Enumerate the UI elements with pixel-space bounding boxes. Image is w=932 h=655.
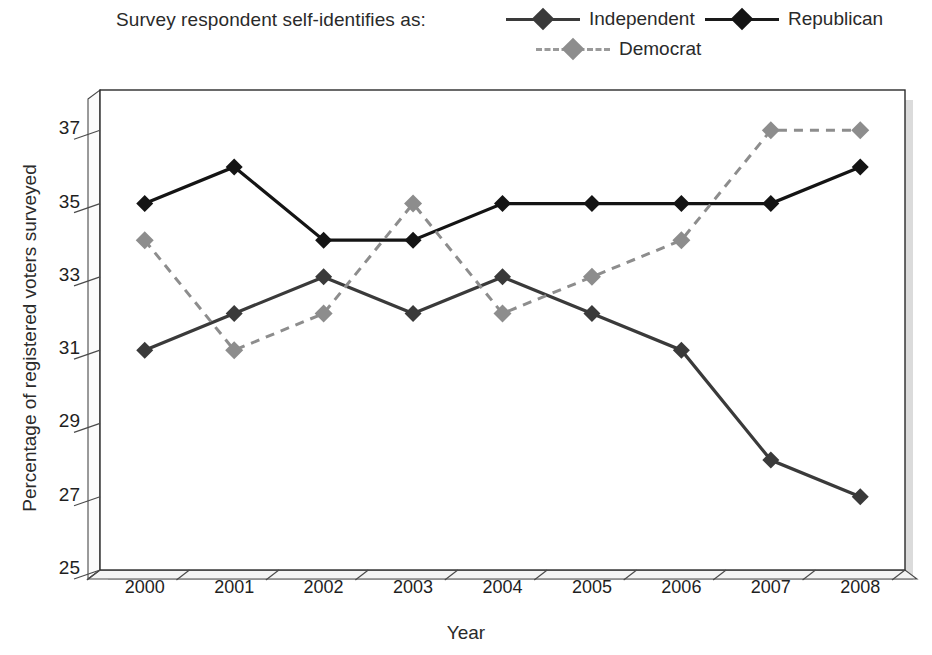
legend-item-republican: Republican (705, 8, 883, 30)
legend-swatch-independent (506, 9, 580, 29)
diamond-marker-icon (532, 8, 555, 31)
axis-floor (88, 570, 917, 579)
plot-frame (100, 90, 905, 570)
legend-label-independent: Independent (589, 8, 695, 30)
legend-swatch-democrat (536, 39, 610, 59)
legend-swatch-republican (705, 9, 779, 29)
line-chart: Percentage of registered voters surveyed… (0, 72, 932, 655)
legend-item-independent: Independent (506, 8, 695, 30)
chart-legend: Survey respondent self-identifies as: In… (0, 0, 932, 72)
axis-wall-left (88, 90, 100, 579)
legend-label-democrat: Democrat (619, 38, 701, 60)
diamond-marker-icon (562, 38, 585, 61)
diamond-marker-icon (731, 8, 754, 31)
legend-item-democrat: Democrat (536, 38, 701, 60)
legend-title: Survey respondent self-identifies as: (116, 9, 426, 31)
plot-area (0, 72, 932, 655)
legend-label-republican: Republican (788, 8, 883, 30)
